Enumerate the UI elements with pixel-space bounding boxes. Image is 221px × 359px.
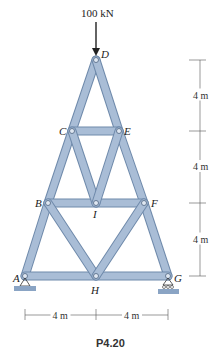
- pin-F: [142, 201, 147, 206]
- horizontal-dimension: 4 m: [124, 310, 140, 321]
- pin-B: [46, 201, 51, 206]
- truss-diagram: DCEBIFAHG100 kN4 m4 m4 m4 m4 mP4.20: [0, 0, 221, 359]
- vertical-dimension: 4 m: [193, 161, 209, 172]
- pin-C: [70, 129, 75, 134]
- node-label-C: C: [59, 125, 67, 137]
- figure-caption: P4.20: [96, 337, 125, 349]
- node-label-A: A: [12, 272, 20, 284]
- node-label-F: F: [150, 197, 158, 209]
- node-label-B: B: [35, 197, 42, 209]
- vertical-dimension: 4 m: [193, 234, 209, 245]
- node-label-D: D: [100, 48, 109, 60]
- node-label-I: I: [92, 208, 98, 220]
- pin-E: [117, 129, 122, 134]
- vertical-dimension: 4 m: [193, 90, 209, 101]
- horizontal-dimension: 4 m: [53, 310, 69, 321]
- load-label: 100 kN: [81, 7, 114, 19]
- pin-D: [94, 58, 99, 63]
- node-label-H: H: [90, 284, 100, 296]
- pin-I: [94, 201, 99, 206]
- pin-H: [94, 274, 99, 279]
- node-label-E: E: [123, 125, 131, 137]
- node-label-G: G: [174, 272, 182, 284]
